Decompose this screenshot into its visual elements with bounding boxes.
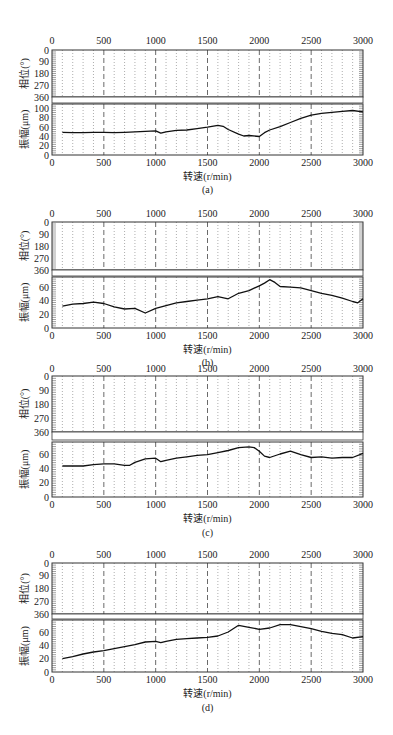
divider-band [52,270,363,276]
phase-tick-label: 180 [34,241,49,252]
top-x-tick-label: 500 [96,549,111,560]
top-x-tick-label: 0 [50,363,55,374]
panel-caption: (a) [202,184,213,196]
top-x-tick-label: 3000 [353,549,373,560]
bottom-x-tick-label: 0 [50,330,55,341]
amp-axis-title: 振幅(μm) [18,450,31,490]
phase-tick-label: 360 [34,427,49,438]
amp-axis-title: 振幅(μm) [18,110,31,150]
amp-tick-label: 20 [39,309,49,320]
amp-tick-label: 100 [34,103,49,114]
phase-tick-label: 90 [39,229,49,240]
x-axis-title: 转速(r/min) [183,343,231,356]
amplitude-plot [52,104,363,155]
top-x-tick-label: 2500 [301,35,321,46]
bottom-x-tick-label: 2500 [301,330,321,341]
panel-c: 0500100015002000250030000901802703600204… [18,363,373,539]
bottom-x-tick-label: 3000 [353,157,373,168]
amp-tick-label: 40 [39,640,49,651]
x-axis-title: 转速(r/min) [183,170,231,183]
amplitude-line [62,625,363,659]
x-axis-title: 转速(r/min) [183,687,231,700]
bottom-x-tick-label: 0 [50,499,55,510]
x-axis-title: 转速(r/min) [183,512,231,525]
phase-tick-label: 270 [34,253,49,264]
amp-tick-label: 0 [44,323,49,334]
top-x-tick-label: 0 [50,208,55,219]
bottom-x-tick-label: 0 [50,674,55,685]
bottom-x-tick-label: 500 [96,674,111,685]
bottom-x-tick-label: 0 [50,157,55,168]
panel-caption: (d) [202,702,214,714]
phase-axis-title: 相位(°) [18,573,31,604]
top-x-tick-label: 2000 [249,549,269,560]
amp-tick-label: 0 [44,667,49,678]
phase-tick-label: 0 [44,45,49,56]
phase-tick-label: 270 [34,596,49,607]
top-x-tick-label: 2000 [249,208,269,219]
bottom-x-tick-label: 1500 [198,330,218,341]
figure: 0500100015002000250030000901802703600204… [0,0,393,735]
divider-band [52,97,363,103]
bottom-x-tick-label: 2500 [301,499,321,510]
amp-tick-label: 40 [39,295,49,306]
phase-plot [52,563,363,614]
phase-plot [52,376,363,432]
bottom-x-tick-label: 1500 [198,157,218,168]
top-x-tick-label: 1000 [146,35,166,46]
phase-axis-title: 相位(°) [18,231,31,262]
phase-tick-label: 0 [44,217,49,228]
top-x-tick-label: 0 [50,35,55,46]
amp-tick-label: 40 [39,463,49,474]
amplitude-line [62,447,363,466]
bottom-x-tick-label: 2500 [301,157,321,168]
phase-tick-label: 360 [34,265,49,276]
top-x-tick-label: 1500 [198,208,218,219]
bottom-x-tick-label: 1000 [146,499,166,510]
top-x-tick-label: 2000 [249,35,269,46]
phase-tick-label: 360 [34,609,49,620]
phase-tick-label: 0 [44,371,49,382]
top-x-tick-label: 1000 [146,549,166,560]
phase-tick-label: 180 [34,583,49,594]
phase-tick-label: 90 [39,385,49,396]
phase-tick-label: 270 [34,80,49,91]
bottom-x-tick-label: 1000 [146,330,166,341]
panel-a: 0500100015002000250030000901802703600204… [18,35,373,196]
bottom-x-tick-label: 3000 [353,330,373,341]
bottom-x-tick-label: 1500 [198,499,218,510]
top-x-tick-label: 2000 [249,363,269,374]
amp-tick-label: 60 [39,627,49,638]
top-x-tick-label: 3000 [353,35,373,46]
amplitude-line [62,111,363,137]
bottom-x-tick-label: 1000 [146,157,166,168]
phase-tick-label: 360 [34,92,49,103]
bottom-x-tick-label: 2000 [249,157,269,168]
amplitude-plot [52,442,363,497]
top-x-tick-label: 2500 [301,549,321,560]
amp-axis-title: 振幅(μm) [18,626,31,666]
phase-tick-label: 270 [34,413,49,424]
divider-band [52,614,363,619]
amp-tick-label: 0 [44,492,49,503]
top-x-tick-label: 500 [96,35,111,46]
amp-tick-label: 20 [39,653,49,664]
bottom-x-tick-label: 500 [96,499,111,510]
bottom-x-tick-label: 2000 [249,674,269,685]
top-x-tick-label: 0 [50,549,55,560]
top-x-tick-label: 1000 [146,363,166,374]
bottom-x-tick-label: 3000 [353,674,373,685]
bottom-x-tick-label: 2500 [301,674,321,685]
amplitude-plot [52,620,363,672]
top-x-tick-label: 2500 [301,363,321,374]
phase-tick-label: 90 [39,570,49,581]
phase-axis-title: 相位(°) [18,58,31,89]
bottom-x-tick-label: 3000 [353,499,373,510]
top-x-tick-label: 1500 [198,549,218,560]
bottom-x-tick-label: 1500 [198,674,218,685]
bottom-x-tick-label: 2000 [249,330,269,341]
phase-tick-label: 180 [34,68,49,79]
panel-d: 0500100015002000250030000901802703600204… [18,549,373,714]
phase-tick-label: 180 [34,399,49,410]
amp-tick-label: 60 [39,449,49,460]
